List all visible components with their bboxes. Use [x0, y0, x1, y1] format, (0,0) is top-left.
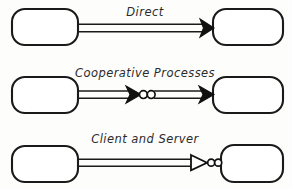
connector-dot-two-cooperative — [147, 91, 155, 99]
connector-direct[interactable] — [78, 19, 214, 37]
diagram-canvas: Direct Cooperative Processes — [0, 0, 292, 189]
node-box-left-cooperative-processes[interactable] — [12, 77, 78, 113]
arrowhead-solid-end-cooperative — [199, 86, 214, 103]
node-box-left-client-and-server[interactable] — [12, 146, 78, 182]
diagram-row-client-and-server: Client and Server — [12, 132, 283, 182]
diagram-row-direct: Direct — [12, 5, 283, 45]
edge-label-direct: Direct — [126, 5, 163, 19]
node-box-right-direct[interactable] — [213, 9, 283, 45]
connector-dot-one-client-server — [208, 159, 215, 166]
edge-label-cooperative-processes: Cooperative Processes — [75, 66, 215, 80]
arrowhead-solid-direct — [200, 19, 214, 37]
diagram-row-cooperative-processes: Cooperative Processes — [12, 66, 283, 113]
node-box-right-cooperative-processes[interactable] — [213, 77, 283, 113]
node-box-right-client-and-server[interactable] — [221, 145, 283, 182]
connector-cooperative-processes[interactable] — [78, 86, 214, 103]
arrowhead-hollow-client-server — [191, 155, 207, 170]
node-box-left-direct[interactable] — [12, 9, 78, 45]
connector-dot-one-cooperative — [140, 91, 148, 99]
connector-client-and-server[interactable] — [78, 155, 222, 170]
connector-dot-two-client-server — [215, 159, 222, 166]
edge-label-client-and-server: Client and Server — [91, 132, 199, 146]
diagram-root: Direct Cooperative Processes — [0, 0, 292, 189]
